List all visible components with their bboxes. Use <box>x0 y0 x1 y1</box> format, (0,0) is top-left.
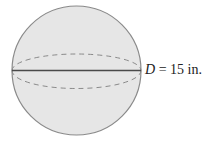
diameter-value: 15 in. <box>170 62 202 77</box>
diameter-variable: D <box>145 62 155 77</box>
sphere-diagram: D = 15 in. <box>0 0 224 141</box>
diameter-label: D = 15 in. <box>145 62 202 78</box>
equals-sign: = <box>155 62 170 77</box>
